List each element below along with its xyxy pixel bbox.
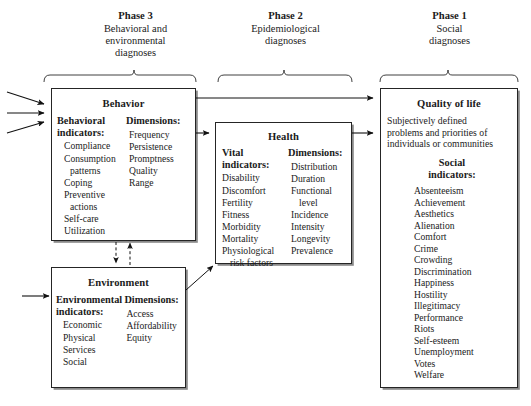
- environment-left-item: Economic: [56, 319, 124, 331]
- social-indicator-item: Happiness: [414, 277, 517, 289]
- health-right-heading: Dimensions:: [288, 147, 351, 159]
- social-indicator-item: Discrimination: [414, 266, 517, 278]
- health-right-item: level: [291, 197, 351, 209]
- phase-3-title: Phase 3: [70, 10, 201, 22]
- health-right-item: Longevity: [291, 233, 351, 245]
- phase-3-subtitle-line-1: Behavioral and: [70, 23, 201, 35]
- phase-3-bracket: [44, 70, 196, 82]
- phase-1-subtitle-line-1: Social: [384, 23, 515, 35]
- quality-of-life-description-line: individuals or communities: [387, 138, 517, 150]
- health-left-item: Mortality: [222, 233, 288, 245]
- phase-1-header: Phase 1 Social diagnoses: [384, 10, 515, 47]
- environment-left-item: Services: [56, 344, 124, 356]
- health-left-item: Fitness: [222, 209, 288, 221]
- phase-2-subtitle-line-1: Epidemiological: [220, 23, 351, 35]
- behavior-left-heading-line-1: Behavioral: [57, 115, 126, 127]
- health-left-heading-line-1: Vital: [222, 147, 288, 159]
- health-right-item: Prevalence: [291, 245, 351, 257]
- social-indicator-item: Aesthetics: [414, 208, 517, 220]
- behavior-left-item: Self-care: [57, 213, 126, 225]
- health-left-item: Fertility: [222, 197, 288, 209]
- health-left-item: Physiological: [222, 245, 288, 257]
- phase-2-bracket: [218, 70, 352, 82]
- phase-1-subtitle-line-2: diagnoses: [384, 35, 515, 47]
- social-indicator-item: Hostility: [414, 289, 517, 301]
- environment-left-heading-line-1: Environmental: [56, 294, 124, 306]
- health-left-item: Disability: [222, 172, 288, 184]
- quality-of-life-sub-heading-line-1: Social: [387, 157, 517, 169]
- social-indicator-item: Absenteeism: [414, 185, 517, 197]
- inbound-arrow-bottom: [7, 122, 44, 133]
- environment-left-item: Social: [56, 356, 124, 368]
- social-indicator-item: Crowding: [414, 254, 517, 266]
- health-right-item: Distribution: [291, 161, 351, 173]
- environment-left-heading: Environmental indicators:: [56, 294, 124, 317]
- environment-left-item: Physical: [56, 332, 124, 344]
- health-left-heading: Vital indicators:: [222, 147, 288, 170]
- environment-box: Environment Environmental indicators: Ec…: [51, 267, 186, 388]
- behavior-right-item: Persistence: [129, 141, 195, 153]
- social-indicator-item: Comfort: [414, 231, 517, 243]
- quality-of-life-box-title: Quality of life: [381, 98, 517, 109]
- environment-right-heading: Dimensions:: [124, 294, 185, 306]
- environment-right-item: Access: [126, 308, 185, 320]
- social-indicator-item: Unemployment: [414, 346, 517, 358]
- phase-1-bracket: [380, 70, 518, 82]
- behavior-right-item: Range: [129, 177, 195, 189]
- quality-of-life-description-line: Subjectively defined: [387, 115, 517, 127]
- behavior-left-item: Utilization: [57, 225, 126, 237]
- health-right-item: Incidence: [291, 209, 351, 221]
- quality-of-life-box: Quality of life Subjectively defined pro…: [380, 88, 518, 388]
- behavior-box-title: Behavior: [52, 98, 195, 109]
- behavior-left-heading-line-2: indicators:: [57, 127, 126, 139]
- phase-2-title: Phase 2: [220, 10, 351, 22]
- quality-of-life-sub-heading-line-2: indicators:: [387, 169, 517, 181]
- social-indicator-item: Performance: [414, 312, 517, 324]
- health-right-heading-line-1: Dimensions:: [288, 147, 351, 159]
- behavior-left-heading: Behavioral indicators:: [57, 115, 126, 138]
- environment-right-item: Affordability: [126, 320, 185, 332]
- phase-2-header: Phase 2 Epidemiological diagnoses: [220, 10, 351, 47]
- behavior-left-item: patterns: [57, 165, 126, 177]
- social-indicator-item: Votes: [414, 358, 517, 370]
- quality-of-life-sub-heading: Social indicators:: [381, 157, 517, 180]
- inbound-arrow-top: [7, 92, 44, 104]
- quality-of-life-description-line: problems and priorities of: [387, 127, 517, 139]
- behavior-box: Behavior Behavioral indicators: Complian…: [51, 88, 196, 241]
- health-right-item: Duration: [291, 173, 351, 185]
- social-indicator-item: Illegitimacy: [414, 300, 517, 312]
- behavior-right-heading-line-1: Dimensions:: [126, 115, 195, 127]
- social-indicator-item: Self-esteem: [414, 335, 517, 347]
- social-indicator-item: Riots: [414, 323, 517, 335]
- health-left-heading-line-2: indicators:: [222, 159, 288, 171]
- environment-left-heading-line-2: indicators:: [56, 306, 124, 318]
- behavior-right-item: Frequency: [129, 129, 195, 141]
- health-box-title: Health: [216, 131, 351, 142]
- social-indicator-item: Welfare: [414, 369, 517, 381]
- environment-box-title: Environment: [52, 277, 185, 288]
- diagram-canvas: Phase 3 Behavioral and environmental dia…: [0, 0, 531, 406]
- behavior-left-item: Compliance: [57, 140, 126, 152]
- environment-right-heading-line-1: Dimensions:: [124, 294, 185, 306]
- environment-to-health-connector: [186, 266, 213, 290]
- behavior-right-item: Promptness: [129, 153, 195, 165]
- phase-1-title: Phase 1: [384, 10, 515, 22]
- social-indicator-item: Crime: [414, 243, 517, 255]
- health-right-item: Intensity: [291, 221, 351, 233]
- phase-3-subtitle-line-2: environmental: [70, 35, 201, 47]
- behavior-left-item: actions: [57, 201, 126, 213]
- health-right-item: Functional: [291, 185, 351, 197]
- health-left-item: Discomfort: [222, 185, 288, 197]
- behavior-left-item: Preventive: [57, 189, 126, 201]
- environment-right-item: Equity: [126, 332, 185, 344]
- behavior-left-item: Coping: [57, 177, 126, 189]
- health-left-item: Morbidity: [222, 221, 288, 233]
- behavior-left-item: Consumption: [57, 153, 126, 165]
- behavior-right-item: Quality: [129, 165, 195, 177]
- phase-3-header: Phase 3 Behavioral and environmental dia…: [70, 10, 201, 59]
- social-indicator-item: Achievement: [414, 197, 517, 209]
- phase-3-subtitle-line-3: diagnoses: [70, 47, 201, 59]
- social-indicator-item: Alienation: [414, 220, 517, 232]
- health-box: Health Vital indicators: Disability Disc…: [215, 122, 352, 264]
- health-left-item: risk factors: [222, 257, 288, 269]
